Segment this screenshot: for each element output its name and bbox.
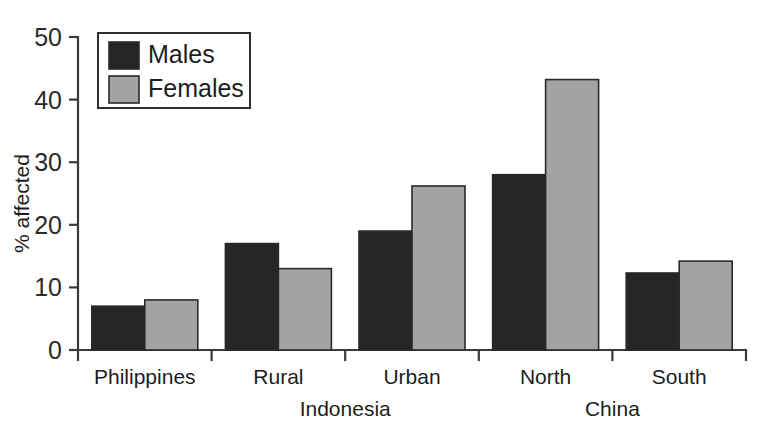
legend-label: Females: [148, 74, 244, 102]
y-axis-tick-label: 50: [34, 23, 62, 51]
y-axis-tick-label: 40: [34, 86, 62, 114]
bar: [493, 175, 546, 350]
bar: [412, 186, 465, 350]
category-label: North: [520, 365, 571, 388]
category-label: South: [652, 365, 707, 388]
bar: [679, 261, 732, 350]
group-labels: IndonesiaChina: [300, 397, 640, 420]
legend-swatch: [109, 42, 139, 69]
category-labels: PhilippinesRuralUrbanNorthSouth: [94, 365, 707, 388]
category-label: Rural: [253, 365, 303, 388]
y-axis-title: % affected: [10, 154, 33, 253]
x-axis: [78, 350, 746, 361]
y-axis-tick-label: 10: [34, 273, 62, 301]
bar: [225, 244, 278, 350]
bar: [92, 306, 145, 350]
chart-legend: MalesFemales: [98, 33, 250, 108]
y-axis-tick-label: 30: [34, 148, 62, 176]
bars-layer: [92, 80, 732, 350]
category-label: Urban: [383, 365, 440, 388]
bar-chart-figure: 01020304050 PhilippinesRuralUrbanNorthSo…: [0, 0, 774, 434]
y-axis-title-text: % affected: [10, 154, 33, 253]
bar: [626, 273, 679, 350]
y-axis: 01020304050: [34, 23, 78, 364]
group-label: China: [585, 397, 640, 420]
legend-label: Males: [148, 40, 215, 68]
chart-canvas: 01020304050 PhilippinesRuralUrbanNorthSo…: [0, 0, 774, 434]
category-label: Philippines: [94, 365, 196, 388]
bar: [145, 300, 198, 350]
y-axis-tick-label: 20: [34, 211, 62, 239]
bar: [359, 231, 412, 350]
bar: [278, 269, 331, 350]
y-axis-tick-label: 0: [48, 336, 62, 364]
legend-swatch: [109, 76, 139, 103]
group-label: Indonesia: [300, 397, 391, 420]
bar: [546, 80, 599, 350]
